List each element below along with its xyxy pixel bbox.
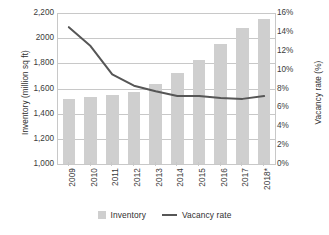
y-axis-right-tick-label: 4% <box>277 122 289 130</box>
x-axis-tick-label: 2012 <box>133 168 142 187</box>
legend-label-vacancy-rate: Vacancy rate <box>182 210 231 220</box>
chart-legend: Inventory Vacancy rate <box>0 210 329 220</box>
y-axis-right-title: Vacancy rate (%) <box>314 13 323 173</box>
y-axis-left-tick-label: 2,200 <box>34 9 55 17</box>
y-axis-left-tick-label: 1,000 <box>34 160 55 168</box>
gridline <box>58 164 275 165</box>
y-axis-left-ticks: 1,0001,2001,4001,6001,80020002,200 <box>16 0 54 168</box>
x-axis-tick-mark <box>220 162 221 166</box>
x-axis-labels: 2009201020112012201320142015201620172018… <box>57 166 274 206</box>
line-swatch-icon <box>162 214 177 216</box>
x-axis-tick-label: 2010 <box>90 168 99 187</box>
x-axis-tick-label: 2016 <box>220 168 229 187</box>
x-axis-tick-label: 2011 <box>111 168 120 186</box>
y-axis-left-tick-label: 2000 <box>36 34 54 42</box>
y-axis-right-tick-label: 14% <box>277 28 293 36</box>
x-axis-tick-mark <box>263 162 264 166</box>
legend-label-inventory: Inventory <box>111 210 146 220</box>
x-axis-tick-mark <box>90 162 91 166</box>
bar-swatch-icon <box>98 211 106 219</box>
y-axis-right-tick-label: 6% <box>277 103 289 111</box>
x-axis-tick-mark <box>198 162 199 166</box>
plot-area <box>57 13 276 165</box>
asterisk-marker: * <box>263 168 272 171</box>
legend-item-inventory: Inventory <box>98 210 146 220</box>
x-axis-tick-label: 2013 <box>155 168 164 187</box>
x-axis-tick-mark <box>111 162 112 166</box>
y-axis-right-tick-label: 10% <box>277 66 293 74</box>
y-axis-right-tick-label: 16% <box>277 9 293 17</box>
x-axis-tick-mark <box>241 162 242 166</box>
x-axis-tick-mark <box>155 162 156 166</box>
y-axis-right-tick-label: 12% <box>277 47 293 55</box>
x-axis-tick-label: 2014 <box>176 168 185 187</box>
y-axis-left-tick-label: 1,800 <box>34 59 55 67</box>
x-axis-tick-label: 2009 <box>68 168 77 187</box>
y-axis-right-tick-label: 2% <box>277 141 289 149</box>
y-axis-right-tick-label: 0% <box>277 160 289 168</box>
y-axis-right-ticks: 0%2%4%6%8%10%12%14%16% <box>277 0 309 168</box>
x-axis-tick-mark <box>68 162 69 166</box>
x-axis-tick-label: 2015 <box>198 168 207 187</box>
x-axis-tick-label: 2018* <box>263 168 272 190</box>
y-axis-right-tick-label: 8% <box>277 85 289 93</box>
x-axis-tick-mark <box>133 162 134 166</box>
y-axis-left-tick-label: 1,400 <box>34 110 55 118</box>
x-axis-tick-label: 2017 <box>241 168 250 187</box>
legend-item-vacancy-rate: Vacancy rate <box>162 210 231 220</box>
y-axis-left-tick-label: 1,200 <box>34 135 55 143</box>
vacancy-rate-polyline <box>69 27 264 99</box>
chart-container: Inventory (million sq ft) Vacancy rate (… <box>0 0 329 235</box>
line-series-vacancy-rate <box>58 13 275 164</box>
x-axis-tick-mark <box>176 162 177 166</box>
y-axis-left-tick-label: 1,600 <box>34 85 55 93</box>
